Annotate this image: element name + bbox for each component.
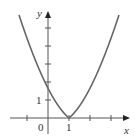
origin-label: 0 xyxy=(38,121,44,133)
parabola-curve xyxy=(19,15,119,118)
x-axis-label: x xyxy=(123,124,129,136)
y-axis-label: y xyxy=(36,7,42,19)
y-tick-label-1: 1 xyxy=(36,94,42,106)
x-tick-label-1: 1 xyxy=(66,121,72,133)
x-axis-arrow-icon xyxy=(123,115,130,121)
y-axis-arrow-icon xyxy=(45,11,51,18)
parabola-plot: y x 0 1 1 xyxy=(0,0,135,138)
